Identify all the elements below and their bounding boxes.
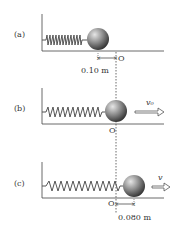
- velocity-arrow-icon: [135, 108, 164, 116]
- ball: [87, 28, 109, 50]
- distance-label: 0.10 m: [81, 66, 109, 75]
- spring-relaxed: [42, 107, 105, 117]
- x-marker: ×: [131, 200, 136, 207]
- panel-a: (a) × × O 0.10 m: [14, 14, 164, 75]
- panel-label: (c): [14, 179, 25, 188]
- spring-mass-diagram: (a) × × O 0.10 m (b) O v₀ (c) O × × 0.08…: [0, 0, 180, 234]
- panel-label: (a): [14, 30, 25, 39]
- origin-label: O: [118, 54, 125, 63]
- x-marker: ×: [96, 54, 101, 61]
- ball: [105, 100, 127, 122]
- spring-compressed: [42, 35, 87, 45]
- ball: [123, 175, 145, 197]
- spring-stretched: [42, 181, 123, 191]
- velocity-label: v₀: [146, 98, 155, 107]
- panel-label: (b): [14, 104, 25, 113]
- distance-label: 0.080 m: [118, 213, 151, 222]
- velocity-arrow-icon: [152, 183, 170, 191]
- origin-label: O: [109, 126, 116, 135]
- panel-c: (c) O × × 0.080 m v: [14, 162, 170, 222]
- velocity-label: v: [158, 173, 163, 182]
- x-marker: ×: [114, 200, 119, 207]
- panel-b: (b) O v₀: [14, 88, 164, 135]
